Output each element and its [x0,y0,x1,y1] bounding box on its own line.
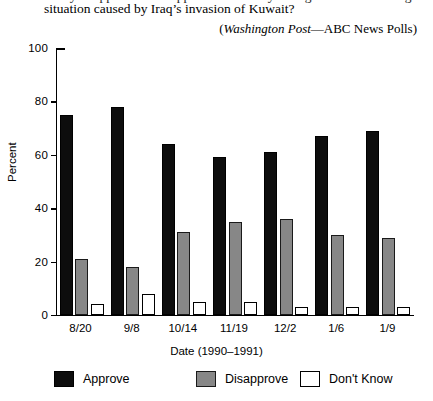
bar-dontknow [193,302,206,315]
y-axis-tick-label: 60 [35,149,48,161]
y-axis-tick-mark [51,155,57,156]
legend-swatch-dontknow [300,371,320,387]
bar-group [162,49,206,315]
bar-approve [162,144,175,315]
bar-dontknow [397,307,410,315]
bar-disapprove [177,232,190,315]
legend-label: Approve [83,372,130,386]
bar-disapprove [229,222,242,315]
bar-disapprove [126,267,139,315]
bar-approve [60,115,73,315]
bar-approve [111,107,124,315]
legend-label: Disapprove [225,372,288,386]
x-axis-tick-label: 9/8 [124,322,140,334]
bar-approve [366,131,379,315]
legend-swatch-disapprove [196,371,216,387]
y-axis-tick-mark [51,101,57,102]
plot-area: 020406080100 [56,49,414,316]
bar-group [213,49,257,315]
x-axis-tick-label: 1/6 [328,322,344,334]
legend-swatch-approve [54,371,74,387]
bar-dontknow [346,307,359,315]
bar-approve [264,152,277,315]
bar-dontknow [244,302,257,315]
bar-disapprove [331,235,344,315]
y-axis-tick-mark [51,208,57,209]
y-axis-tick-label: 80 [35,95,48,107]
x-axis-tick-label: 1/9 [379,322,395,334]
bar-dontknow [91,304,104,315]
y-axis-tick-label: 0 [41,309,48,321]
bar-disapprove [280,219,293,315]
x-axis-tick-label: 8/20 [69,322,91,334]
y-axis-tick-mark [51,315,57,316]
legend-item: Disapprove [196,368,288,390]
y-axis-tick-label: 100 [28,42,48,54]
legend-label: Don't Know [329,372,393,386]
x-axis-tick-label: 10/14 [168,322,197,334]
y-axis-tick-label: 40 [35,202,48,214]
bar-dontknow [295,307,308,315]
legend-item: Approve [54,368,130,390]
y-axis-tick-mark [51,262,57,263]
bar-dontknow [142,294,155,315]
chart-legend: ApproveDisapproveDon't Know [0,368,433,394]
x-axis-tick-label: 12/2 [274,322,296,334]
bar-group [264,49,308,315]
bar-approve [213,157,226,315]
bar-group [315,49,359,315]
y-axis-tick-label: 20 [35,256,48,268]
x-axis-tick-label: 11/19 [220,322,248,334]
bar-group [111,49,155,315]
x-axis-title: Date (1990–1991) [0,345,433,357]
y-axis-title: Percent [6,142,18,182]
legend-item: Don't Know [300,368,393,390]
bar-group [366,49,410,315]
bar-approve [315,136,328,315]
bar-disapprove [75,259,88,315]
bar-chart: Percent 020406080100 8/209/810/1411/1912… [0,0,433,401]
bar-disapprove [382,238,395,315]
bar-group [60,49,104,315]
